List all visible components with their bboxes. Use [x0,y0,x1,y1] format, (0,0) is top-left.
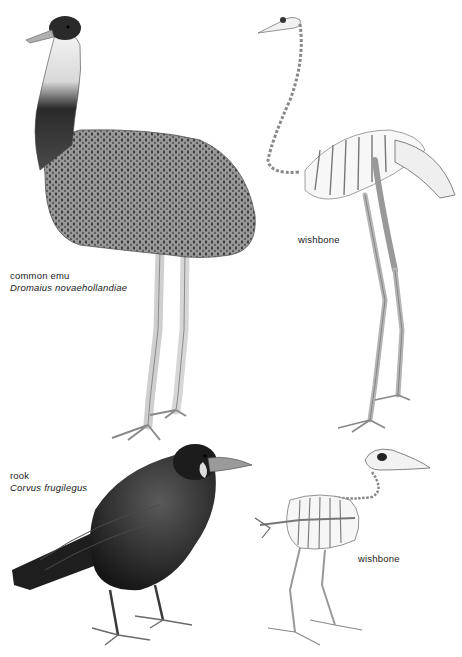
illustration-plate: common emu Dromaius novaehollandiae wish… [0,0,462,657]
rook-wishbone-label: wishbone [358,553,400,565]
rook-skeleton-drawing [255,449,430,645]
rook-caption: rook Corvus frugilegus [10,470,87,494]
emu-caption: common emu Dromaius novaehollandiae [10,270,127,294]
emu-wishbone-label: wishbone [298,234,340,246]
rook-wishbone-text: wishbone [358,553,400,564]
rook-scientific-name: Corvus frugilegus [10,482,87,494]
emu-common-name: common emu [10,270,127,282]
emu-skeleton-drawing [258,17,455,432]
emu-scientific-name: Dromaius novaehollandiae [10,282,127,294]
emu-drawing [26,16,255,440]
emu-wishbone-text: wishbone [298,234,340,245]
rook-common-name: rook [10,470,87,482]
